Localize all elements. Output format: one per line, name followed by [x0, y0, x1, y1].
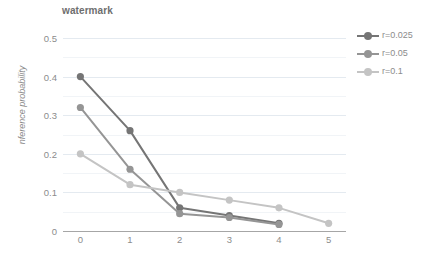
data-point[interactable] [275, 204, 282, 211]
legend-item-r01[interactable]: r=0.1 [357, 66, 413, 76]
y-tick-label: 0.5 [21, 33, 57, 44]
legend-marker-icon [357, 67, 379, 76]
legend-marker-icon [357, 31, 379, 40]
series-line [80, 154, 328, 223]
x-tick-label: 5 [314, 234, 344, 245]
data-point[interactable] [77, 104, 84, 111]
data-point[interactable] [325, 220, 332, 227]
data-point[interactable] [226, 197, 233, 204]
legend-label: r=0.025 [382, 30, 413, 40]
chart-title: watermark [62, 5, 113, 16]
y-tick-label: 0 [21, 226, 57, 237]
data-point[interactable] [226, 214, 233, 221]
data-point[interactable] [176, 210, 183, 217]
y-axis-title: nference probability [17, 45, 27, 165]
x-tick-label: 2 [165, 234, 195, 245]
data-point[interactable] [126, 166, 133, 173]
series-layer [63, 38, 346, 231]
y-tick-label: 0.1 [21, 187, 57, 198]
data-point[interactable] [126, 181, 133, 188]
legend-marker-icon [357, 49, 379, 58]
x-tick-label: 0 [65, 234, 95, 245]
y-tick-label: 0.3 [21, 110, 57, 121]
series-line [80, 77, 279, 224]
data-point[interactable] [176, 189, 183, 196]
legend-item-r0025[interactable]: r=0.025 [357, 30, 413, 40]
data-point[interactable] [77, 73, 84, 80]
legend-label: r=0.1 [382, 66, 403, 76]
x-axis-line [63, 231, 346, 232]
y-tick-label: 0.4 [21, 72, 57, 83]
data-point[interactable] [275, 221, 282, 228]
data-point[interactable] [126, 127, 133, 134]
x-tick-label: 1 [115, 234, 145, 245]
chart-container: watermark nference probability 0.5 0.4 0… [0, 0, 432, 263]
legend: r=0.025 r=0.05 r=0.1 [357, 30, 413, 76]
legend-label: r=0.05 [382, 48, 408, 58]
legend-item-r005[interactable]: r=0.05 [357, 48, 413, 58]
data-point[interactable] [77, 150, 84, 157]
y-tick-label: 0.2 [21, 149, 57, 160]
x-tick-label: 3 [214, 234, 244, 245]
x-tick-label: 4 [264, 234, 294, 245]
